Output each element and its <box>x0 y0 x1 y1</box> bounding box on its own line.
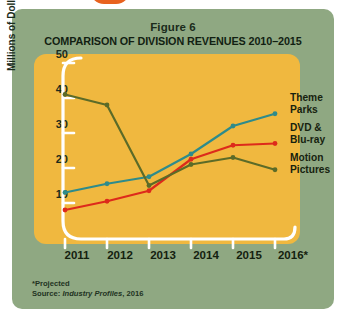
legend-label-dvd-bluray-line2: Blu-ray <box>290 134 325 145</box>
data-point-marker <box>273 167 278 172</box>
data-point-marker <box>105 181 110 186</box>
series-line <box>65 95 275 186</box>
data-point-marker <box>231 155 236 160</box>
data-point-marker <box>63 92 68 97</box>
data-point-marker <box>273 111 278 116</box>
series-line <box>65 114 275 193</box>
chart-canvas <box>12 9 334 309</box>
legend-item-motion-pictures: Motion Pictures <box>290 152 346 175</box>
legend-label-motion-pictures-line1: Motion <box>290 152 323 163</box>
axis-bracket <box>63 58 295 239</box>
chart-legend: Theme Parks DVD & Blu-ray Motion Picture… <box>290 92 346 182</box>
data-point-marker <box>147 183 152 188</box>
data-point-marker <box>189 152 194 157</box>
series-line <box>65 144 275 211</box>
legend-item-theme-parks: Theme Parks <box>290 92 346 115</box>
figure-container: Figure 6 COMPARISON OF DIVISION REVENUES… <box>0 0 346 316</box>
legend-label-dvd-bluray-line1: DVD & <box>290 122 322 133</box>
legend-label-theme-parks-line2: Parks <box>290 104 318 115</box>
data-point-marker <box>273 141 278 146</box>
data-point-marker <box>189 162 194 167</box>
data-point-marker <box>147 188 152 193</box>
legend-item-dvd-bluray: DVD & Blu-ray <box>290 122 346 145</box>
legend-label-theme-parks-line1: Theme <box>290 92 323 103</box>
data-point-marker <box>105 103 110 108</box>
data-point-marker <box>231 124 236 129</box>
data-point-marker <box>63 190 68 195</box>
data-point-marker <box>147 174 152 179</box>
page-bleed-blob <box>90 0 130 4</box>
legend-label-motion-pictures-line2: Pictures <box>290 164 330 175</box>
data-point-marker <box>231 143 236 148</box>
data-point-marker <box>63 208 68 213</box>
data-point-marker <box>189 157 194 162</box>
data-point-marker <box>105 199 110 204</box>
